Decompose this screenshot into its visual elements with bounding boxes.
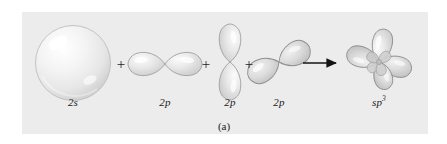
orbital-label-2p-x: 2p	[159, 96, 170, 108]
orbital-label-2p-z: 2p	[224, 96, 235, 108]
orbital-2p-x-shape	[128, 52, 202, 75]
orbital-label-2s: 2s	[68, 96, 78, 108]
figure-caption: (a)	[218, 120, 230, 132]
orbital-2p-z-shape	[219, 24, 241, 100]
orbital-label-sp3: sp3	[372, 96, 386, 108]
orbital-label-sp3-superscript: 3	[382, 94, 386, 103]
plus-operator-2: +	[202, 57, 210, 72]
plus-operator-1: +	[117, 57, 125, 72]
orbital-label-2p-y: 2p	[273, 96, 284, 108]
orbital-sp3-shape	[344, 28, 414, 92]
plus-operator-3: +	[245, 57, 253, 72]
orbital-2p-y-shape	[243, 36, 314, 88]
orbital-label-sp3-base: sp	[372, 96, 382, 108]
orbital-hybridization-figure: + + + 2s 2p 2p 2p sp3 (a)	[0, 0, 447, 144]
orbital-2s-shape	[36, 26, 111, 101]
figure-stage: + + + 2s 2p 2p 2p sp3 (a)	[0, 0, 447, 144]
